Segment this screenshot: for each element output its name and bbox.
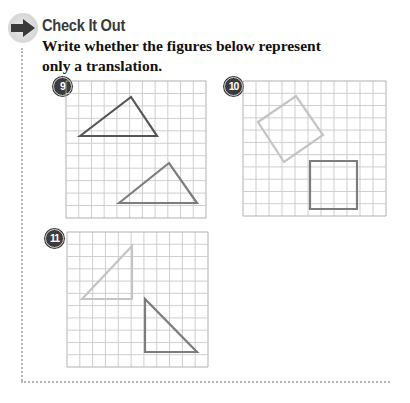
triangle-shape <box>82 246 132 299</box>
triangle-shape <box>145 299 197 352</box>
graph-paper-grid <box>66 81 206 218</box>
problem-figures <box>0 0 410 403</box>
square-shape <box>310 161 357 209</box>
triangle-shape <box>119 163 197 203</box>
graph-paper-grid <box>243 81 386 216</box>
problem-10-figure <box>243 81 386 216</box>
problem-11-figure <box>67 232 208 367</box>
problem-9-figure <box>66 81 206 218</box>
